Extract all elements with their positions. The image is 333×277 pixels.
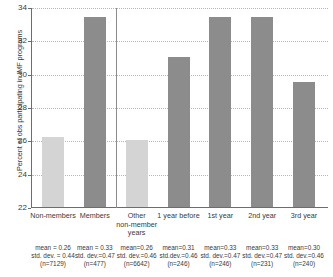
statistics-block: mean=0.30std. dev.=0.46(n=240) — [277, 244, 331, 268]
gridline — [32, 41, 328, 42]
y-axis-tick-label: 24 — [0, 171, 27, 179]
plot-area — [31, 8, 328, 208]
y-axis-tick-mark — [28, 175, 31, 176]
stat-mean: mean=0.30 — [277, 244, 331, 252]
y-axis-tick-mark — [28, 208, 31, 209]
y-axis-tick-label: 26 — [0, 137, 27, 145]
y-axis-line — [31, 8, 32, 208]
panel-separator — [116, 8, 117, 208]
stat-sample-size: (n=240) — [277, 260, 331, 268]
y-axis-tick-label: 22 — [0, 204, 27, 212]
bar — [42, 137, 64, 207]
y-axis-tick-mark — [28, 8, 31, 9]
bar — [168, 57, 190, 207]
category-label-line: 3rd year — [274, 212, 333, 221]
y-axis-tick-label: 30 — [0, 71, 27, 79]
category-label-line: years — [107, 229, 167, 238]
bar — [209, 17, 231, 207]
bar — [84, 17, 106, 207]
bar — [293, 82, 315, 207]
y-axis-tick-mark — [28, 75, 31, 76]
bar-chart-figure: Percent of obs participating in IMF prog… — [0, 0, 333, 277]
gridline — [32, 8, 328, 9]
bar — [126, 140, 148, 207]
y-axis-tick-mark — [28, 41, 31, 42]
statistics-annotations: mean = 0.26std. dev. = 0.44(n=7129)mean … — [31, 244, 328, 274]
y-axis-tick-mark — [28, 141, 31, 142]
bar — [251, 17, 273, 207]
y-axis-tick-label: 28 — [0, 104, 27, 112]
y-axis-tick-label: 34 — [0, 4, 27, 12]
x-axis-category-labels: Non-membersMembersOthernon-memberyears1 … — [31, 212, 328, 242]
stat-std-dev: std. dev.=0.46 — [277, 252, 331, 260]
y-axis-tick-mark — [28, 108, 31, 109]
y-axis-tick-label: 32 — [0, 37, 27, 45]
x-axis-category-label: 3rd year — [274, 212, 333, 221]
